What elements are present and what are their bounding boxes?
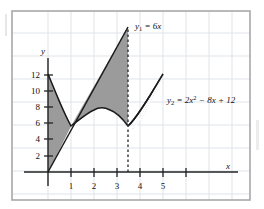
par-eq-rest-b: − 8x + 12 — [197, 95, 236, 105]
x-tick-label: 1 — [69, 181, 74, 191]
y-tick-label: 8 — [36, 102, 41, 112]
x-tick-label: 4 — [138, 181, 143, 191]
x-axis-label: x — [225, 161, 230, 171]
x-tick-label: 5 — [161, 181, 166, 191]
y-tick-label: 6 — [36, 118, 41, 128]
x-tick-label: 3 — [115, 181, 120, 191]
y-axis-label: y — [40, 46, 45, 56]
y-tick-label: 10 — [31, 86, 41, 96]
par-eq-rest-a: = 2x — [174, 95, 193, 105]
line-equation-label: y1 = 6x — [134, 21, 161, 32]
y-tick-label: 12 — [31, 70, 40, 80]
y-tick-label: 2 — [36, 151, 41, 161]
line-eq-rest: = 6x — [142, 21, 161, 31]
parabola-equation-label: y2 = 2x2 − 8x + 12 — [166, 94, 236, 106]
x-tick-label: 2 — [92, 181, 97, 191]
y-tick-label: 4 — [36, 134, 41, 144]
graph-figure: x y 1 2 3 4 5 2 4 6 8 10 12 y1 = 6x y2 =… — [0, 0, 264, 209]
